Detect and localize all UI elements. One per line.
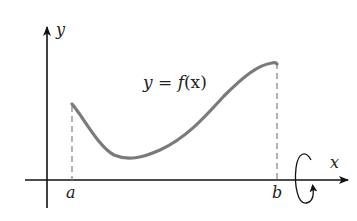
diagram-canvas: y x y = f(x) a b	[0, 0, 357, 221]
y-axis-label: y	[55, 20, 66, 39]
rotation-arrow-icon	[295, 154, 313, 203]
bound-label-b: b	[272, 183, 282, 202]
x-axis-label: x	[330, 153, 339, 172]
bound-label-a: a	[66, 183, 76, 202]
curve-label: y = f(x)	[142, 72, 207, 92]
